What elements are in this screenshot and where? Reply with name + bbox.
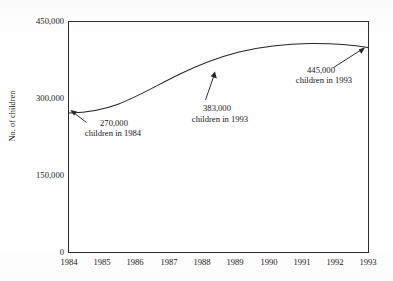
annot-1993-line1: 445,000 <box>307 65 335 75</box>
annot-1984-leader <box>74 113 87 123</box>
xtick-label-1990: 1990 <box>260 257 277 267</box>
y-axis-title: No. of children <box>8 90 17 142</box>
annot-1984-line2: children in 1984 <box>85 128 142 138</box>
annot-1989-line1: 383,000 <box>203 103 231 113</box>
annot-1984-line1: 270,000 <box>100 118 128 128</box>
line-chart: 450,000 300,000 150,000 0 No. of childre… <box>0 0 393 281</box>
ytick-label-150000: 150,000 <box>36 170 64 180</box>
figure-container: 450,000 300,000 150,000 0 No. of childre… <box>0 0 393 281</box>
xtick-label-1991: 1991 <box>293 257 310 267</box>
annot-1993-leader <box>334 50 362 68</box>
x-axis-ticks: 1984 1985 1986 1987 1988 1989 1990 1991 … <box>60 257 376 267</box>
xtick-label-1988: 1988 <box>193 257 210 267</box>
xtick-label-1985: 1985 <box>93 257 110 267</box>
ytick-label-300000: 300,000 <box>36 93 64 103</box>
annot-1989-line2: children in 1993 <box>192 114 248 124</box>
annotation-445000-1993: 445,000 children in 1993 <box>296 47 365 85</box>
ytick-label-0: 0 <box>60 247 64 257</box>
annot-1993-line2: children in 1993 <box>296 75 352 85</box>
xtick-label-1993: 1993 <box>359 257 376 267</box>
xtick-label-1987: 1987 <box>160 257 178 267</box>
annotation-270000-1984: 270,000 children in 1984 <box>70 110 142 138</box>
annotation-383000-1989: 383,000 children in 1993 <box>192 72 248 124</box>
y-axis-ticks: 450,000 300,000 150,000 0 <box>36 16 64 257</box>
annot-1993-arrowhead-icon <box>359 47 366 54</box>
xtick-label-1984: 1984 <box>60 257 78 267</box>
xtick-label-1992: 1992 <box>326 257 343 267</box>
y-axis-title-group: No. of children <box>8 90 17 142</box>
ytick-label-450000: 450,000 <box>36 16 64 26</box>
xtick-label-1989: 1989 <box>226 257 243 267</box>
annot-1989-leader <box>206 76 214 100</box>
xtick-label-1986: 1986 <box>126 257 144 267</box>
